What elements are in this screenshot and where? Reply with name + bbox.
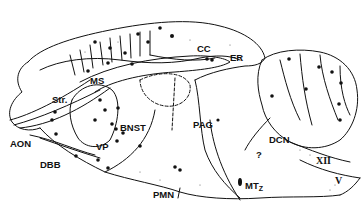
label-mtz-main: MT xyxy=(245,180,259,191)
cortex-outline xyxy=(28,22,265,80)
hippocampus xyxy=(140,74,190,107)
label-dcn: DCN xyxy=(269,135,290,145)
pmn-line xyxy=(178,188,180,198)
label-ms: MS xyxy=(90,76,104,86)
label-mtz-sub: Z xyxy=(259,185,263,192)
fiber-tracts xyxy=(10,55,215,158)
label-v: V xyxy=(335,176,342,186)
brainstem-outline xyxy=(195,80,240,198)
cortical-fibers xyxy=(70,31,150,75)
label-er: ER xyxy=(230,53,243,63)
cerebellum-folia xyxy=(280,54,350,125)
basal-forebrain-outline xyxy=(40,128,340,199)
label-pag: PAG xyxy=(193,120,213,130)
brain-diagram: CC ER MS Str. BNST AON VP DBB PAG DCN ? … xyxy=(0,0,363,213)
brain-outline-drawing xyxy=(0,0,363,213)
label-bnst: BNST xyxy=(120,123,146,133)
mtz-path xyxy=(210,120,240,200)
label-dbb: DBB xyxy=(40,160,61,170)
label-mtz: MTZ xyxy=(245,181,263,192)
ventral-arc xyxy=(105,110,155,172)
label-aon: AON xyxy=(10,139,31,149)
olfactory-bulb xyxy=(10,62,40,130)
label-pmn: PMN xyxy=(153,190,174,200)
label-xii: XII xyxy=(316,156,331,166)
dashed-line-vertical xyxy=(172,78,175,130)
dcn-path xyxy=(245,118,270,150)
label-question: ? xyxy=(256,150,262,160)
label-vp: VP xyxy=(96,142,109,152)
label-cc: CC xyxy=(197,44,211,54)
striatum-outline xyxy=(70,85,118,147)
label-str: Str. xyxy=(52,95,67,105)
